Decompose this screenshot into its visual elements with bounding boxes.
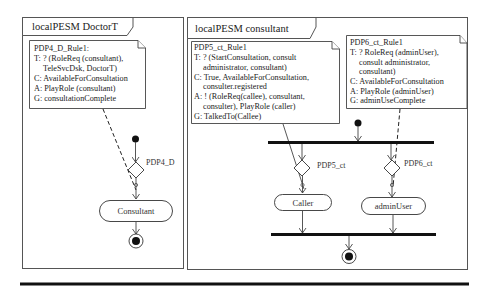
note-line: T: ? (RoleReq (consultant), <box>34 54 123 63</box>
decision-label: PDP5_ct <box>317 161 346 170</box>
activity-diagram: localPESM DoctorT PDP4_D_Rule1: T: ? (Ro… <box>0 0 484 287</box>
note-line: G: adminUseComplete <box>350 96 426 105</box>
note-line: A: PlayRole (consultant) <box>34 84 116 93</box>
note-line: PDP6_ct_Rule1 <box>350 38 403 47</box>
right-note-pdp5: PDP5_ct_Rule1 T: ? (StartConsultation, c… <box>192 42 340 124</box>
note-line: T: ? (StartConsultation, consult <box>194 53 297 62</box>
note-line: TeleSvcDsk, DoctorT) <box>43 64 117 73</box>
right-frame-title: localPESM consultant <box>195 23 289 34</box>
note-line: consultant) <box>359 67 396 76</box>
action-label: adminUser <box>375 201 412 211</box>
final-node-core <box>132 237 140 245</box>
final-node-core <box>345 253 353 261</box>
note-line: PDP5_ct_Rule1 <box>194 43 247 52</box>
note-line: consult administrator, <box>359 58 430 67</box>
note-line: consulter.registered <box>203 82 267 91</box>
note-line: administrator, consultant) <box>203 63 287 72</box>
note-line: C: True, AvailableForConsultation, <box>194 73 309 82</box>
left-frame: localPESM DoctorT PDP4_D_Rule1: T: ? (Ro… <box>23 18 184 269</box>
note-line: C: AvailableForConsultation <box>34 74 128 83</box>
right-frame: localPESM consultant PDP5_ct_Rule1 T: ? … <box>188 18 468 270</box>
note-line: PDP4_D_Rule1: <box>34 44 89 53</box>
note-line: G: consultationComplete <box>34 94 116 103</box>
note-line: A: ! (RoleReq(callee), consultant, <box>194 92 305 101</box>
action-label: Caller <box>293 198 314 208</box>
note-line: A: PlayRole (adminUser) <box>350 87 434 96</box>
note-line: G: TalkedTo(Callee) <box>194 112 261 121</box>
decision-label: PDP4_D <box>146 158 175 167</box>
left-note: PDP4_D_Rule1: T: ? (RoleReq (consultant)… <box>30 41 146 109</box>
note-line: T: ? RoleReq (adminUser), <box>350 48 439 57</box>
initial-node <box>355 120 362 127</box>
initial-node <box>132 136 139 143</box>
right-note-pdp6: PDP6_ct_Rule1 T: ? RoleReq (adminUser), … <box>347 36 468 109</box>
note-line: C: AvailableForConsultation <box>350 77 444 86</box>
left-frame-title: localPESM DoctorT <box>32 21 119 32</box>
decision-label: PDP6_ct <box>404 159 433 168</box>
note-line: consulter), PlayRole (caller) <box>203 102 296 111</box>
action-label: Consultant <box>118 206 155 216</box>
